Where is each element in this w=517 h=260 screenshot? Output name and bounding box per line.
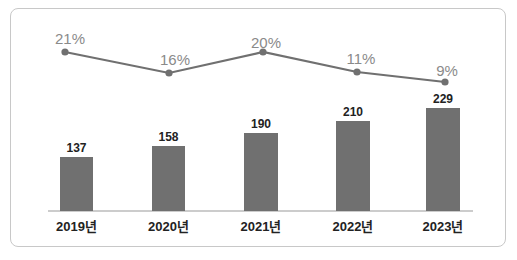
percent-label: 9% — [436, 62, 458, 79]
category-label: 2020년 — [148, 219, 189, 234]
bar-2021 — [244, 133, 278, 211]
line-series — [65, 52, 445, 82]
category-label: 2022년 — [333, 219, 374, 234]
percent-label: 11% — [347, 50, 376, 67]
bar-value-label: 137 — [66, 141, 86, 155]
line-marker — [165, 69, 172, 76]
line-marker — [61, 48, 68, 55]
category-label: 2019년 — [56, 219, 97, 234]
percent-label: 20% — [251, 34, 281, 51]
category-label: 2023년 — [423, 219, 464, 234]
bar-value-label: 158 — [158, 130, 178, 144]
combo-chart: 137 158 190 210 229 21% 16% 20% 11% 9% 2… — [0, 0, 517, 260]
percent-label: 21% — [55, 30, 85, 47]
line-marker — [441, 78, 448, 85]
category-label: 2021년 — [241, 219, 282, 234]
x-axis-labels: 2019년 2020년 2021년 2022년 2023년 — [56, 219, 463, 234]
bar-2019 — [60, 157, 93, 211]
percent-label: 16% — [160, 51, 190, 68]
line-marker — [353, 68, 360, 75]
bar-value-label: 190 — [251, 117, 271, 131]
bar-value-label: 229 — [433, 92, 453, 106]
bar-value-label: 210 — [343, 105, 363, 119]
bar-2020 — [152, 146, 185, 211]
bar-2022 — [336, 121, 370, 211]
bar-2023 — [426, 108, 460, 211]
